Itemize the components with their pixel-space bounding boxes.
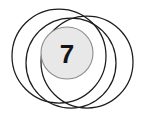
- center-disc-label: 7: [60, 39, 74, 69]
- venn-diagram-figure: 7: [0, 0, 141, 119]
- venn-diagram-canvas: 7: [0, 0, 141, 119]
